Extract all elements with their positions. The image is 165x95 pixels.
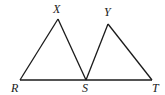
segment-RX: [20, 19, 58, 80]
label-Y: Y: [104, 5, 112, 19]
segments: [20, 19, 152, 80]
segment-YT: [108, 24, 152, 80]
segment-SY: [86, 24, 108, 80]
label-T: T: [152, 81, 160, 95]
label-S: S: [82, 81, 88, 95]
label-X: X: [52, 2, 61, 16]
geometry-diagram: R X S Y T: [0, 0, 165, 95]
diagram-svg: R X S Y T: [0, 0, 165, 95]
vertex-labels: R X S Y T: [10, 2, 160, 95]
label-R: R: [10, 81, 19, 95]
segment-XS: [58, 19, 86, 80]
